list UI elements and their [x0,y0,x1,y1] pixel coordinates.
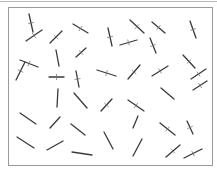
needle-segment [184,149,202,158]
needle-segment [49,74,64,80]
needle-segment [73,24,88,33]
cross-tick [75,78,81,79]
cross-tick [134,103,137,108]
needle-segment [187,121,193,134]
needle-segment [20,113,36,124]
cross-tick [32,33,35,38]
needle-segment [71,124,85,135]
needle-segment [190,21,196,38]
needle-segment [57,89,58,107]
needle-segment [161,88,174,99]
needle-segment [101,99,112,111]
needles-canvas [0,0,217,169]
needle-segment [76,48,86,57]
needle-segment [75,71,81,87]
needle-segment [107,28,113,46]
needle-segment [133,139,142,156]
needle-segment [128,65,140,79]
needle-segment [56,50,59,66]
needle-segment [150,38,156,53]
needle-segment [50,31,62,43]
needle-segment [183,55,195,68]
needle-segment [191,69,206,79]
needle-segment [133,116,138,128]
needle-segment [152,66,168,76]
needle-segment [166,145,180,157]
needle-segment [97,70,116,76]
needle-segment [17,137,34,148]
needle-segment [72,152,92,155]
needle-segment [120,40,137,46]
needle-segment [26,30,42,41]
needle-segment [16,62,25,80]
needle-segment [152,22,165,33]
needle-segment [74,93,87,108]
needle-segment [47,141,63,150]
needle-segment [160,123,175,135]
needle-segment [128,100,144,111]
needle-segment [50,117,60,128]
needle-segment [130,20,144,33]
needle-segment [193,81,207,90]
needle-segment [104,132,113,149]
needle-segment [28,14,34,32]
